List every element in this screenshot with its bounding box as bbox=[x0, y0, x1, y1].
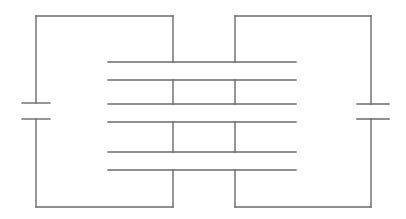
circuit-diagram bbox=[0, 0, 406, 219]
circuit-svg bbox=[0, 0, 406, 219]
